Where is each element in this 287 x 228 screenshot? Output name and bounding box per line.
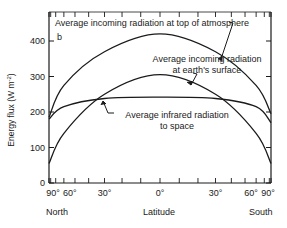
curve-top-of-atmosphere [49, 34, 271, 117]
x-axis-ticks: 90°60°30°0°30°60°90° [46, 12, 275, 198]
x-tick-label: 30° [98, 188, 112, 198]
south-label: South [249, 207, 273, 217]
y-tick-label: 400 [30, 36, 45, 46]
x-tick-label: 60° [63, 188, 77, 198]
x-tick-label: 30° [209, 188, 223, 198]
y-tick-label: 100 [30, 143, 45, 153]
x-tick-label: 0° [156, 188, 165, 198]
y-tick-label: 200 [30, 107, 45, 117]
annotation-infrared-line1: Average infrared radiation [125, 110, 228, 120]
x-tick-label: 90° [46, 188, 60, 198]
annotation-top-of-atmosphere: Average incoming radiation at top of atm… [55, 18, 249, 28]
annotation-surface-line1: Average incoming radiation [153, 54, 262, 64]
x-tick-label: 90° [261, 188, 275, 198]
north-label: North [46, 207, 68, 217]
annotation-surface-line2: at earth's surface [173, 65, 242, 75]
panel-label: b [57, 32, 62, 42]
y-tick-label: 300 [30, 72, 45, 82]
y-tick-label: 0 [40, 178, 45, 188]
x-tick-label: 60° [244, 188, 258, 198]
annotation-infrared-line2: to space [160, 121, 194, 131]
y-axis-label: Energy flux (W m-2) [6, 73, 16, 147]
x-axis-label: Latitude [143, 207, 175, 217]
energy-flux-chart: 0100200300400 90°60°30°0°30°60°90° Avera… [0, 0, 287, 228]
